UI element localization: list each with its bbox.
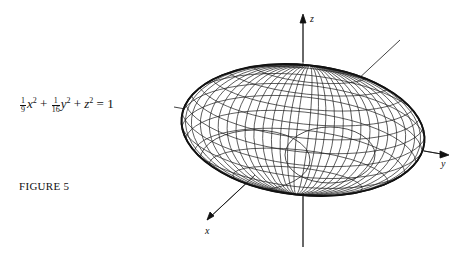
- ellipsoid-diagram: z y x: [0, 0, 463, 257]
- x-axis-label: x: [204, 225, 210, 236]
- x-arrow-icon: [207, 212, 214, 220]
- z-arrow-icon: [300, 14, 306, 23]
- z-axis-label: z: [309, 13, 314, 24]
- y-axis-label: y: [440, 158, 446, 169]
- y-arrow-icon: [440, 151, 449, 158]
